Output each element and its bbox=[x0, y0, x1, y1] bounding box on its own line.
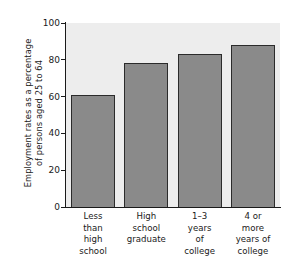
x-axis-category-line: Less bbox=[68, 211, 118, 223]
x-axis-category-line: 1–3 bbox=[175, 211, 225, 223]
x-axis-category-line: school bbox=[121, 223, 171, 235]
bar-slot bbox=[124, 23, 168, 207]
y-axis-tick-label: 0 bbox=[54, 202, 60, 212]
x-axis-category-line: of bbox=[175, 234, 225, 246]
x-axis-category-line: years of bbox=[228, 234, 278, 246]
y-axis-tick-labels: 100 80 60 40 20 0 bbox=[38, 23, 60, 207]
y-axis-tick-label: 100 bbox=[43, 18, 60, 28]
y-axis-line bbox=[65, 22, 66, 208]
bar-slot bbox=[231, 23, 275, 207]
x-axis-category-line: 4 or bbox=[228, 211, 278, 223]
bar-slot bbox=[178, 23, 222, 207]
x-axis-category-line: high bbox=[68, 234, 118, 246]
x-axis-category-1-3-years-of-college: 1–3yearsofcollege bbox=[175, 211, 225, 271]
x-axis-category-line: college bbox=[175, 246, 225, 258]
x-axis-category-line: school bbox=[68, 246, 118, 258]
y-axis-tick-label: 20 bbox=[49, 165, 60, 175]
y-axis-tick-label: 80 bbox=[49, 54, 60, 64]
x-axis-category-line: college bbox=[228, 246, 278, 258]
x-axis-category-high-school-graduate: Highschoolgraduate bbox=[121, 211, 171, 271]
x-axis-category-line: than bbox=[68, 223, 118, 235]
x-axis-category-line: graduate bbox=[121, 234, 171, 246]
bar-less-than-high-school[interactable] bbox=[71, 95, 115, 207]
x-axis-category-4-or-more-years-of-college: 4 ormoreyears ofcollege bbox=[228, 211, 278, 271]
y-axis-tick-label: 60 bbox=[49, 91, 60, 101]
bar-chart-figure: Employment rates as a percentage of pers… bbox=[0, 0, 298, 273]
bar-4-or-more-years-of-college[interactable] bbox=[231, 45, 275, 207]
bar-slot bbox=[71, 23, 115, 207]
x-axis-category-line: more bbox=[228, 223, 278, 235]
x-axis-line bbox=[65, 207, 281, 208]
bar-series bbox=[67, 23, 279, 207]
x-axis-category-less-than-high-school: Lessthanhighschool bbox=[68, 211, 118, 271]
y-axis-title-line-1: Employment rates as a percentage bbox=[23, 39, 35, 188]
x-axis-category-line: years bbox=[175, 223, 225, 235]
bar-high-school-graduate[interactable] bbox=[124, 63, 168, 207]
x-axis-tick-labels: Lessthanhighschool Highschoolgraduate 1–… bbox=[67, 211, 279, 271]
x-axis-category-line: High bbox=[121, 211, 171, 223]
y-axis-tick-label: 40 bbox=[49, 128, 60, 138]
bar-1-3-years-of-college[interactable] bbox=[178, 54, 222, 207]
